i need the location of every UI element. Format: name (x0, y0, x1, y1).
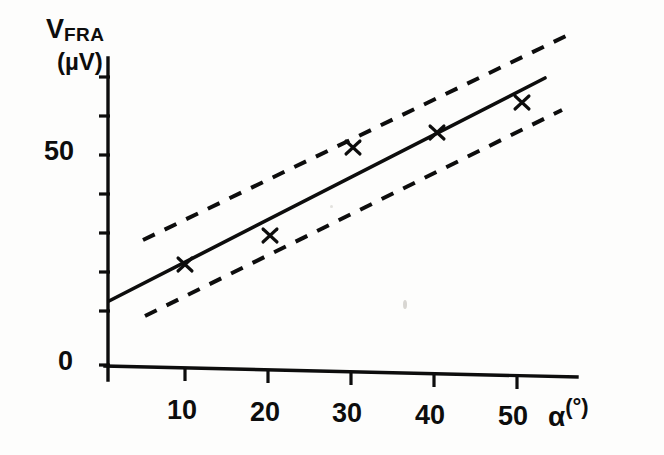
x-axis-label-units: (°) (565, 394, 588, 419)
x-tick-label-30: 30 (332, 400, 362, 427)
x-tick-label-40: 40 (415, 402, 445, 429)
data-point-20 (263, 229, 277, 242)
y-axis-label-main: VFRA (46, 16, 105, 43)
regression-line (109, 78, 545, 301)
x-axis-label-symbol: α (548, 401, 565, 432)
y-tick-label-0: 0 (58, 348, 73, 375)
y-axis-label-units: (µV) (57, 50, 103, 74)
data-point-markers (178, 96, 529, 271)
x-tick-label-20: 20 (250, 399, 280, 426)
data-point-30 (346, 141, 360, 154)
figure-canvas: VFRA (µV) α(°) 50 0 10 20 30 40 50 (0, 0, 664, 455)
data-point-50 (515, 96, 529, 109)
scan-speck (330, 205, 333, 208)
scan-speck (403, 300, 407, 309)
x-axis-line (105, 366, 577, 377)
y-axis-label-symbol: V (46, 14, 64, 44)
x-tick-label-50: 50 (498, 403, 528, 430)
lower-confidence-band (145, 110, 562, 316)
upper-confidence-band (143, 36, 566, 240)
y-axis-label-subscript: FRA (64, 24, 105, 45)
x-tick-label-10: 10 (167, 397, 197, 424)
y-tick-label-50: 50 (44, 138, 74, 165)
x-axis-label: α(°) (548, 398, 589, 431)
